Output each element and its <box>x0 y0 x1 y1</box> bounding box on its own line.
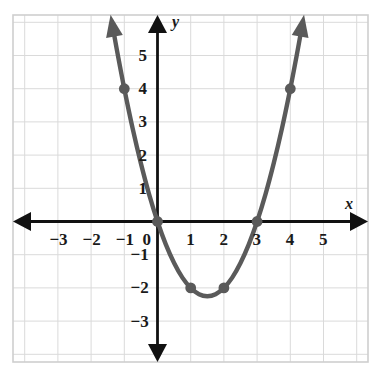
x-tick-label-neg2: −2 <box>83 231 101 248</box>
x-tick-label-3: 3 <box>253 231 262 248</box>
y-tick-label-2: 2 <box>139 147 148 164</box>
coordinate-plane-svg <box>0 0 381 371</box>
data-point <box>252 216 263 227</box>
data-point <box>152 216 163 227</box>
x-tick-label-neg3: −3 <box>49 231 67 248</box>
data-point <box>285 83 296 94</box>
x-tick-label-4: 4 <box>286 231 295 248</box>
y-tick-label-4: 4 <box>139 80 148 97</box>
data-point <box>185 283 196 294</box>
y-tick-label-5: 5 <box>139 47 148 64</box>
y-tick-label-neg2: −2 <box>131 279 149 296</box>
graph-canvas: −3−2−101234554321−1−2−3 x y <box>0 0 381 371</box>
y-tick-label-neg3: −3 <box>131 313 149 330</box>
y-tick-label-neg1: −1 <box>131 246 149 263</box>
data-point <box>119 83 130 94</box>
x-tick-label-2: 2 <box>219 231 228 248</box>
x-axis-label: x <box>345 196 353 212</box>
y-tick-label-1: 1 <box>139 180 148 197</box>
y-axis-label: y <box>172 14 179 30</box>
y-tick-label-3: 3 <box>139 113 148 130</box>
x-tick-label-5: 5 <box>319 231 328 248</box>
data-point <box>219 283 230 294</box>
x-tick-label-1: 1 <box>186 231 195 248</box>
